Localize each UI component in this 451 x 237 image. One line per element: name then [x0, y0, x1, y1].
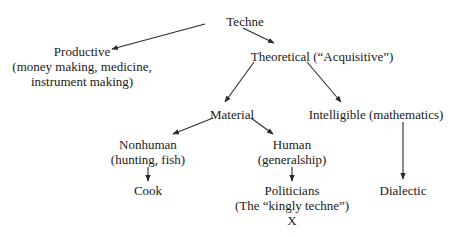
node-nonhuman-label: Nonhuman: [111, 137, 185, 152]
edge-theoretical-material: [225, 62, 254, 102]
node-theoretical-label: Theoretical (“Acquisitive”): [251, 49, 394, 64]
node-techne-label: Techne: [226, 14, 263, 29]
node-politicians: Politicians (The “kingly techne”) X: [235, 183, 349, 228]
node-productive-detail-2: instrument making): [12, 74, 151, 89]
edge-material-human: [251, 118, 273, 134]
edge-material-nonhuman: [173, 118, 213, 134]
techne-diagram: Techne Productive (money making, medicin…: [0, 0, 451, 237]
node-theoretical: Theoretical (“Acquisitive”): [251, 49, 394, 64]
node-dialectic-label: Dialectic: [380, 183, 427, 198]
node-productive-label: Productive: [12, 44, 151, 59]
node-material: Material: [210, 107, 254, 122]
node-cook: Cook: [134, 183, 162, 198]
node-cook-label: Cook: [134, 183, 162, 198]
edge-techne-theoretical: [243, 28, 274, 43]
node-dialectic: Dialectic: [380, 183, 427, 198]
node-productive-detail-1: (money making, medicine,: [12, 59, 151, 74]
node-human-label: Human: [258, 137, 327, 152]
node-techne: Techne: [226, 14, 263, 29]
node-politicians-detail-2: X: [235, 213, 349, 228]
node-human: Human (generalship): [258, 137, 327, 167]
node-nonhuman: Nonhuman (hunting, fish): [111, 137, 185, 167]
node-nonhuman-detail-1: (hunting, fish): [111, 152, 185, 167]
node-intelligible: Intelligible (mathematics): [309, 107, 444, 122]
node-productive: Productive (money making, medicine, inst…: [12, 44, 151, 89]
node-politicians-detail-1: (The “kingly techne”): [235, 198, 349, 213]
node-intelligible-label: Intelligible (mathematics): [309, 107, 444, 122]
node-politicians-label: Politicians: [235, 183, 349, 198]
node-material-label: Material: [210, 107, 254, 122]
edge-theoretical-intelligible: [307, 62, 341, 102]
node-human-detail-1: (generalship): [258, 152, 327, 167]
